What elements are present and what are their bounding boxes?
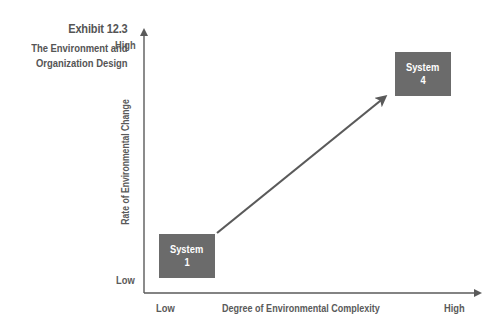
system-4-box: System 4 xyxy=(395,52,451,96)
x-axis-title: Degree of Environmental Complexity xyxy=(222,302,380,314)
y-axis-low-label: Low xyxy=(116,274,135,286)
system-1-box: System 1 xyxy=(159,234,215,278)
x-axis-low-label: Low xyxy=(156,302,175,314)
system-4-label-line-1: System xyxy=(406,61,439,74)
system-1-label-line-1: System xyxy=(170,243,203,256)
y-axis-high-label: High xyxy=(115,39,136,51)
system-4-label-line-2: 4 xyxy=(420,74,425,87)
system-1-label-line-2: 1 xyxy=(184,256,189,269)
y-axis-title: Rate of Environmental Change xyxy=(119,99,131,224)
progression-arrow xyxy=(217,97,385,233)
x-axis-high-label: High xyxy=(444,302,465,314)
diagram-canvas xyxy=(0,0,498,336)
